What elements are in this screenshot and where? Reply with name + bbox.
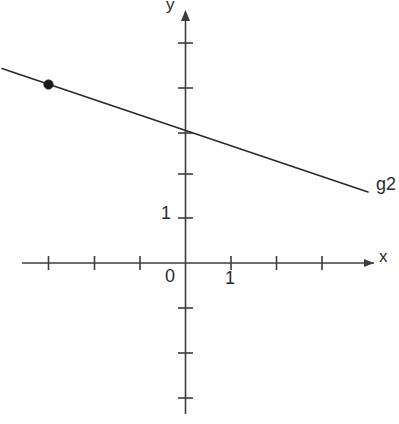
y-axis-unit-label: 1	[161, 204, 171, 222]
y-axis-label: y	[166, 0, 175, 13]
curve-label-g2: g2	[376, 175, 396, 193]
x-axis	[22, 256, 374, 270]
y-axis-arrow-icon	[181, 10, 190, 21]
coordinate-plane-figure: x y 0 1 1 g2	[0, 0, 399, 424]
x-axis-arrow-icon	[364, 259, 374, 267]
origin-label: 0	[165, 267, 175, 285]
graph-canvas	[0, 0, 399, 424]
data-point-marker	[44, 80, 53, 89]
y-axis	[178, 10, 193, 414]
x-axis-label: x	[379, 248, 388, 265]
x-axis-unit-label: 1	[225, 269, 235, 287]
